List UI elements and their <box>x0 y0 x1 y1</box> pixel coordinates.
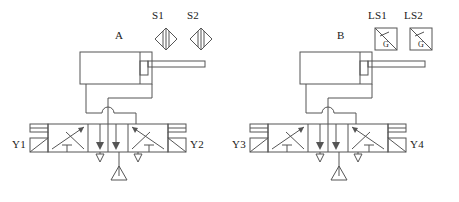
sensor-s1-label: S1 <box>152 9 164 21</box>
sensor-ls1-icon[interactable]: G <box>375 28 397 50</box>
sensor-s2-icon[interactable] <box>190 28 212 50</box>
cylinder-a[interactable] <box>80 52 205 84</box>
sensor-s2-label: S2 <box>187 9 199 21</box>
solenoid-y2-label: Y2 <box>190 138 204 150</box>
circuit-right: G G <box>250 28 432 180</box>
circuit-left <box>30 28 212 180</box>
sensor-ls2-label: LS2 <box>404 9 423 21</box>
pneumatic-circuit-diagram: G G <box>0 0 459 202</box>
sensor-ls1-label: LS1 <box>368 9 387 21</box>
sensor-s1-icon[interactable] <box>155 28 177 50</box>
svg-text:G: G <box>383 40 389 49</box>
cylinder-a-label: A <box>115 29 123 41</box>
solenoid-y3-label: Y3 <box>232 138 246 150</box>
cylinder-b[interactable] <box>300 52 425 84</box>
solenoid-y4-label: Y4 <box>410 138 424 150</box>
cylinder-b-label: B <box>337 29 345 41</box>
valve-y1-y2[interactable] <box>30 84 186 180</box>
svg-text:G: G <box>418 40 424 49</box>
valve-y3-y4[interactable] <box>250 84 406 180</box>
solenoid-y1-label: Y1 <box>12 138 26 150</box>
sensor-ls2-icon[interactable]: G <box>410 28 432 50</box>
